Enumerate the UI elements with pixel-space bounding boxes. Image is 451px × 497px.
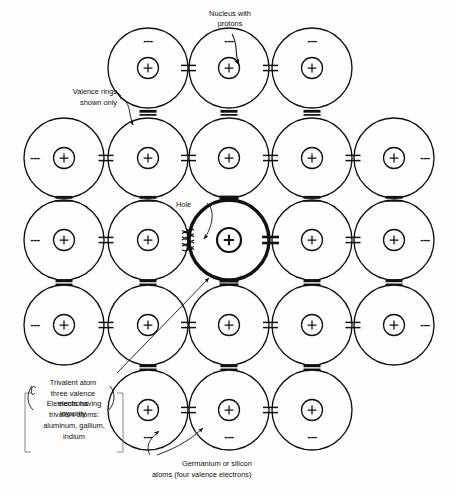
trivalent-label-line2: three valence xyxy=(51,389,95,398)
trivalent-label-line1: Trivalent atom xyxy=(50,378,97,387)
nucleus xyxy=(219,315,240,336)
germanium-label-line1: Germanium or silicon xyxy=(182,459,252,468)
elements-box-line3: aluminum, gallium, xyxy=(43,421,105,430)
nucleus xyxy=(219,400,240,421)
continuation-dashes: --- xyxy=(30,233,40,245)
nucleus xyxy=(54,315,75,336)
continuation-dashes: --- xyxy=(224,430,234,442)
nucleus-label-line2: protons xyxy=(218,19,243,28)
continuation-dashes: --- xyxy=(307,430,317,442)
nucleus xyxy=(54,148,75,169)
nucleus xyxy=(219,148,240,169)
continuation-dashes: --- xyxy=(30,151,40,163)
elements-box-line1: Elements having xyxy=(47,399,102,408)
continuation-dashes: --- xyxy=(420,233,430,245)
continuation-dashes: --- xyxy=(143,430,153,442)
valence-rings-label-line1: Valence rings xyxy=(73,87,118,96)
nucleus xyxy=(54,230,75,251)
nucleus-label-line1: Nucleus with xyxy=(209,9,251,18)
nucleus xyxy=(384,148,405,169)
impurity-nucleus xyxy=(217,228,241,252)
continuation-dashes: --- xyxy=(420,318,430,330)
nucleus xyxy=(302,400,323,421)
nucleus xyxy=(302,230,323,251)
continuation-dashes: --- xyxy=(30,318,40,330)
nucleus xyxy=(302,58,323,79)
germanium-label-line2: atoms (four valence electrons) xyxy=(152,470,251,479)
nucleus xyxy=(138,58,159,79)
nucleus xyxy=(219,58,240,79)
elements-box-line4: indium xyxy=(63,432,85,441)
elements-box-line2: trivalent atoms: xyxy=(49,410,99,419)
nucleus xyxy=(302,315,323,336)
continuation-dashes: --- xyxy=(143,34,153,46)
nucleus xyxy=(302,148,323,169)
lattice-svg-canvas: ------------------------------------ Nuc… xyxy=(0,0,451,497)
crystal-lattice-diagram: ------------------------------------ Nuc… xyxy=(0,0,451,497)
valence-rings-label-line2: shown only xyxy=(80,98,117,107)
nucleus xyxy=(138,148,159,169)
continuation-dashes: --- xyxy=(307,34,317,46)
nucleus xyxy=(138,400,159,421)
hole-label: Hole xyxy=(176,200,191,209)
nucleus xyxy=(138,315,159,336)
continuation-dashes: --- xyxy=(420,151,430,163)
nucleus xyxy=(138,230,159,251)
nucleus xyxy=(384,230,405,251)
nucleus xyxy=(384,315,405,336)
